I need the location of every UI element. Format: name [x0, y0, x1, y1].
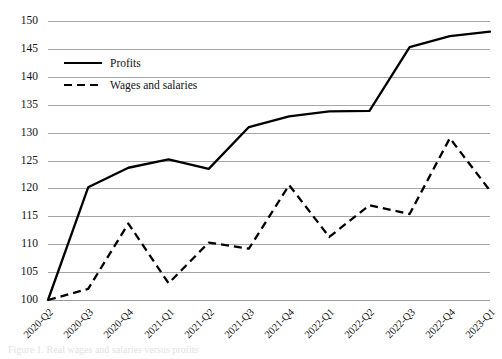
legend-label-profits: Profits: [110, 57, 141, 69]
chart-figure: 150145140135130125120115110105100 Profit…: [0, 0, 502, 359]
legend-item-profits: Profits: [62, 52, 212, 74]
figure-caption: Figure 1. Real wages and salaries versus…: [8, 344, 438, 357]
legend-item-wages: Wages and salaries: [62, 74, 212, 96]
legend-swatch-dashed-icon: [62, 80, 104, 90]
series-line-wages: [48, 138, 490, 300]
legend-label-wages: Wages and salaries: [110, 79, 197, 91]
legend-swatch-solid-icon: [62, 58, 104, 68]
chart-legend: Profits Wages and salaries: [62, 52, 212, 96]
y-axis-tick-labels: 150145140135130125120115110105100: [0, 21, 44, 300]
